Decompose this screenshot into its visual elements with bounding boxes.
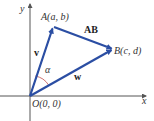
- y-axis-label: y: [19, 3, 25, 14]
- vector-v-label: v: [34, 47, 39, 58]
- point-a-label: A(a, b): [40, 11, 69, 23]
- angle-alpha-label: α: [45, 64, 51, 75]
- vector-diagram: y x O(0, 0) A(a, b) B(c, d) v w AB α: [0, 0, 154, 121]
- origin-label: O(0, 0): [32, 98, 62, 110]
- point-b-label: B(c, d): [114, 45, 142, 57]
- x-axis-label: x: [141, 95, 147, 106]
- vector-w-label: w: [74, 71, 82, 82]
- vector-ab: [54, 27, 112, 49]
- vector-ab-label: AB: [84, 24, 98, 35]
